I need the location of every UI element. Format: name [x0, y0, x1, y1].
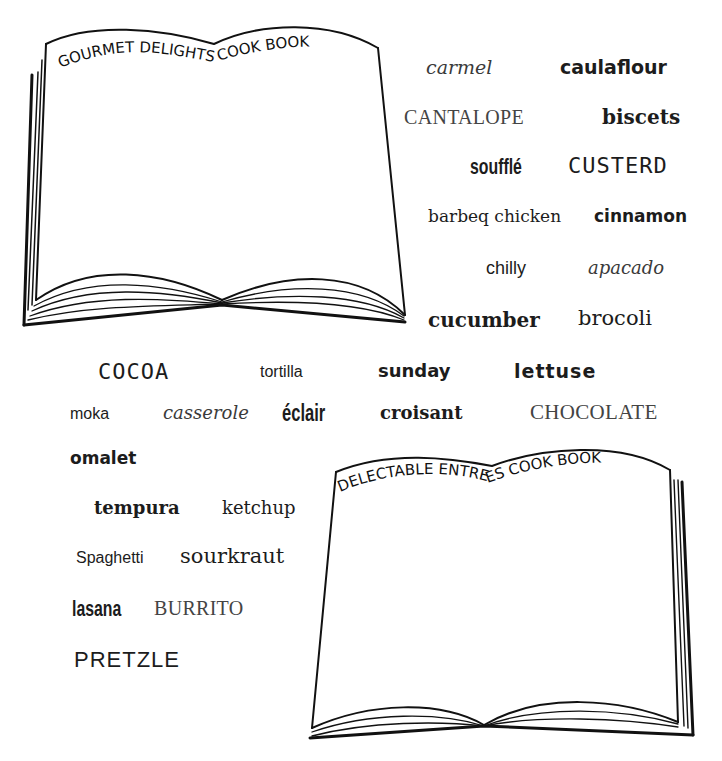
open-book-icon: GOURMET DELIGHTS COOK BOOK — [0, 0, 420, 340]
word-cinnamon[interactable]: cinnamon — [594, 208, 687, 225]
word-apacado[interactable]: apacado — [588, 259, 664, 277]
word-brocoli[interactable]: brocoli — [578, 308, 652, 329]
book-title: GOURMET DELIGHTS COOK BOOK — [55, 33, 310, 72]
delectable-entrees-cook-book: DELECTABLE ENTREES COOK BOOK — [300, 430, 722, 761]
word-pretzle[interactable]: PRETZLE — [74, 649, 180, 671]
word-tortilla[interactable]: tortilla — [260, 364, 303, 380]
word-croisant[interactable]: croisant — [380, 404, 463, 422]
word-souffle[interactable]: soufflé — [470, 156, 522, 178]
word-eclair[interactable]: éclair — [282, 402, 325, 425]
book-title: DELECTABLE ENTREES COOK BOOK — [335, 449, 603, 496]
word-cocoa[interactable]: COCOA — [98, 361, 169, 383]
word-lasana[interactable]: lasana — [72, 598, 121, 620]
word-sourkraut[interactable]: sourkraut — [180, 546, 284, 567]
word-cucumber[interactable]: cucumber — [428, 310, 540, 330]
gourmet-delights-cook-book: GOURMET DELIGHTS COOK BOOK — [0, 0, 420, 340]
word-barbeq-chicken[interactable]: barbeq chicken — [428, 208, 561, 225]
open-book-icon: DELECTABLE ENTREES COOK BOOK — [300, 430, 722, 761]
word-burrito[interactable]: BURRITO — [154, 598, 244, 618]
word-ketchup[interactable]: ketchup — [222, 499, 296, 517]
word-carmel[interactable]: carmel — [426, 58, 492, 77]
word-lettuse[interactable]: lettuse — [514, 362, 596, 381]
word-biscets[interactable]: biscets — [602, 107, 680, 127]
word-moka[interactable]: moka — [70, 406, 109, 422]
word-tempura[interactable]: tempura — [94, 499, 180, 517]
word-chocolate[interactable]: CHOCOLATE — [530, 402, 658, 423]
word-spaghetti[interactable]: Spaghetti — [76, 550, 144, 566]
word-chilly[interactable]: chilly — [486, 259, 526, 277]
word-omalet[interactable]: omalet — [70, 450, 136, 467]
word-sunday[interactable]: sunday — [378, 362, 451, 380]
word-cantalope[interactable]: CANTALOPE — [404, 107, 524, 127]
word-custerd[interactable]: CUSTERD — [568, 155, 668, 177]
word-casserole[interactable]: casserole — [163, 404, 249, 422]
word-caulaflour[interactable]: caulaflour — [560, 58, 667, 77]
